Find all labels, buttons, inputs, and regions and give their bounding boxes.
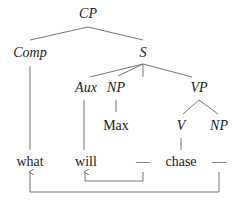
node-aux: Aux xyxy=(74,80,98,95)
movement-arrow-object xyxy=(30,172,219,192)
word-what: what xyxy=(16,154,43,169)
node-cp: CP xyxy=(79,6,97,21)
node-s: S xyxy=(140,45,147,60)
node-vp: VP xyxy=(190,80,208,95)
syntax-tree-diagram: CP Comp S Aux NP VP V NP Max what will —… xyxy=(0,0,238,203)
gap-object: — xyxy=(211,154,227,169)
node-comp: Comp xyxy=(13,45,46,60)
word-max: Max xyxy=(103,118,129,133)
gap-aux: — xyxy=(135,154,151,169)
node-np-object: NP xyxy=(209,118,228,133)
node-np-subject: NP xyxy=(106,80,125,95)
movement-arrow-aux xyxy=(85,172,143,181)
word-chase: chase xyxy=(165,154,196,169)
node-v: V xyxy=(177,118,187,133)
word-will: will xyxy=(75,154,97,169)
